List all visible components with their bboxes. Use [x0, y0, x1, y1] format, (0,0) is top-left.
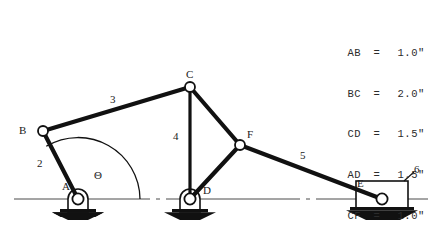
joint-a	[72, 193, 83, 204]
link-label-3: 3	[110, 93, 116, 105]
dimension-table: AB=1.0" BC=2.0" CD=1.5" AD=1.5" CF=1.0" …	[306, 6, 425, 231]
joint-f	[235, 140, 245, 150]
dim-pair: AB	[347, 47, 373, 61]
dim-eq: =	[373, 47, 397, 61]
table-row: CF=1.0"	[306, 196, 425, 210]
dim-value: 2.0"	[397, 88, 425, 102]
dim-pair: BC	[347, 88, 373, 102]
link-2-bar	[43, 131, 78, 199]
dim-value: 1.0"	[397, 210, 425, 224]
link-df-bar	[190, 145, 240, 199]
angle-label-theta: Θ	[94, 169, 102, 181]
dim-value: 1.5"	[397, 169, 425, 183]
joint-label-f: F	[247, 128, 253, 140]
figure-canvas: AB=1.0" BC=2.0" CD=1.5" AD=1.5" CF=1.0" …	[0, 0, 440, 231]
dim-value: 1.5"	[397, 128, 425, 142]
table-row: AB=1.0"	[306, 33, 425, 47]
joint-b	[38, 126, 48, 136]
joint-label-c: C	[186, 68, 193, 80]
joint-label-e: E	[357, 177, 364, 189]
table-row: BC=2.0"	[306, 74, 425, 88]
joint-c	[185, 82, 195, 92]
link-label-4: 4	[173, 130, 179, 142]
table-row: CD=1.5"	[306, 115, 425, 129]
joint-label-d: D	[203, 184, 211, 196]
joint-label-a: A	[62, 180, 70, 192]
dim-eq: =	[373, 210, 397, 224]
dim-eq: =	[373, 128, 397, 142]
table-row: AD=1.5"	[306, 156, 425, 170]
link-label-5: 5	[300, 149, 306, 161]
dim-pair: CD	[347, 128, 373, 142]
joint-d	[184, 193, 195, 204]
dim-eq: =	[373, 169, 397, 183]
link-3-bar	[43, 87, 190, 131]
joint-label-b: B	[19, 124, 26, 136]
dim-value: 1.0"	[397, 47, 425, 61]
link-label-2: 2	[37, 157, 43, 169]
dim-pair: CF	[347, 210, 373, 224]
link-cf-bar	[190, 87, 240, 145]
link-label-6: 6	[414, 163, 420, 175]
dim-eq: =	[373, 88, 397, 102]
